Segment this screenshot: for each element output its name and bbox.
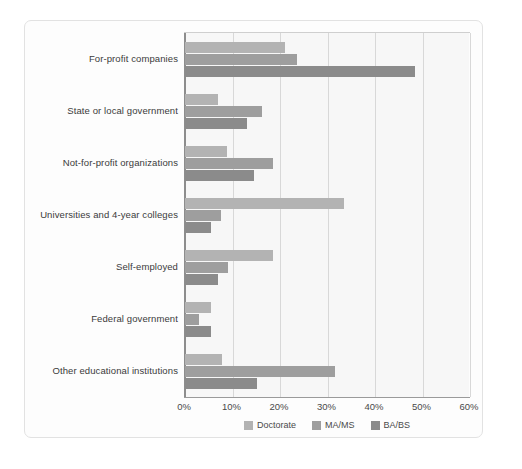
category-label: State or local government [8,105,178,116]
bar-group [185,146,469,181]
bar [185,106,262,117]
bar [185,378,257,389]
category-label: Not-for-profit organizations [8,157,178,168]
legend-swatch-icon [312,421,321,430]
x-tick-label: 20% [257,401,301,412]
bar-group [185,302,469,337]
x-tick-label: 30% [305,401,349,412]
bar [185,146,227,157]
bar [185,274,218,285]
bar [185,54,297,65]
legend-item[interactable]: MA/MS [312,420,355,430]
category-label: For-profit companies [8,53,178,64]
bar [185,158,273,169]
bar-chart: For-profit companiesState or local gover… [0,0,522,469]
bar [185,66,415,77]
bar [185,42,285,53]
x-tick-label: 0% [162,401,206,412]
legend-label: MA/MS [325,420,355,430]
legend-label: Doctorate [257,420,296,430]
bar-group [185,198,469,233]
gridline-60pct [470,33,471,397]
x-tick-label: 40% [352,401,396,412]
bar-group [185,94,469,129]
bar [185,170,254,181]
category-label: Self-employed [8,261,178,272]
category-axis-labels: For-profit companiesState or local gover… [8,33,178,397]
category-label: Federal government [8,313,178,324]
bar [185,250,273,261]
bar-group [185,250,469,285]
bar [185,198,344,209]
bar [185,302,211,313]
legend-item[interactable]: BA/BS [371,420,411,430]
x-axis-line [184,397,470,398]
chart-legend: DoctorateMA/MSBA/BS [184,420,470,430]
x-tick-label: 60% [447,401,491,412]
category-label: Other educational institutions [8,365,178,376]
category-label: Universities and 4-year colleges [8,209,178,220]
bar [185,262,228,273]
legend-item[interactable]: Doctorate [244,420,296,430]
bar-group [185,354,469,389]
bar [185,94,218,105]
x-tick-label: 50% [400,401,444,412]
bar-group [185,42,469,77]
bar [185,366,335,377]
bar [185,354,222,365]
bar [185,326,211,337]
legend-label: BA/BS [384,420,411,430]
legend-swatch-icon [371,421,380,430]
legend-swatch-icon [244,421,253,430]
bar [185,222,211,233]
bar [185,210,221,221]
bar [185,118,247,129]
bar [185,314,199,325]
plot-area [184,33,469,397]
x-tick-label: 10% [210,401,254,412]
